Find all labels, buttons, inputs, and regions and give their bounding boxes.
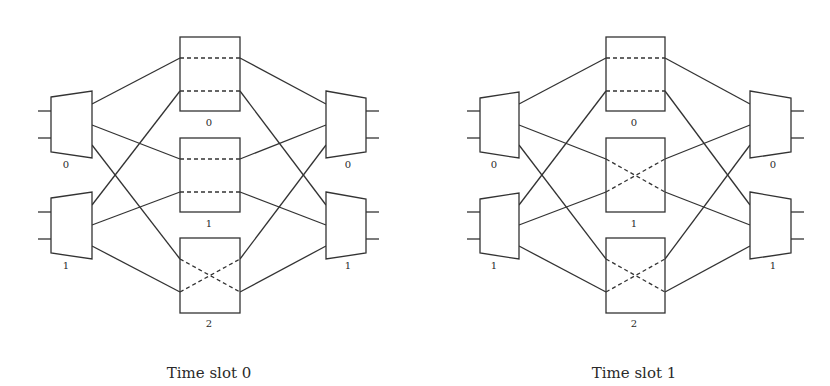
panel-time-slot-0: 0 1 0 1 2 [38,37,379,382]
panel-time-slot-1: 0 1 0 1 2 0 [467,37,804,382]
link-in1-mid2 [92,246,180,292]
mux-trapezoid [750,91,791,158]
demux-trapezoid [480,193,519,259]
output-switch-1: 1 [326,192,379,271]
switch-label: 0 [345,159,351,170]
middle-switch-0: 0 [180,37,240,128]
switch-label: 1 [770,260,776,271]
switch-label: 1 [63,260,69,271]
switch-label: 1 [491,260,497,271]
link-mid1-out1 [665,192,750,225]
link-mid0-out1 [665,91,750,205]
demux-trapezoid [51,91,92,158]
mux-trapezoid [326,192,366,259]
switch-box [606,238,665,313]
output-switch-0: 0 [326,91,379,170]
panel-caption: Time slot 1 [592,364,677,382]
middle-switch-0: 0 [606,37,665,128]
output-stage-links [665,58,750,292]
link-mid2-out1 [665,246,750,292]
switch-box [606,37,665,111]
link-in0-mid2 [92,145,180,259]
link-mid2-out0 [240,145,326,259]
link-in0-mid1 [92,125,180,159]
middle-switch-2: 2 [180,238,240,329]
middle-switch-1: 1 [606,138,665,229]
switch-label: 0 [63,159,69,170]
panel-caption: Time slot 0 [167,364,252,382]
switch-label: 1 [206,218,212,229]
middle-switch-1: 1 [180,138,240,229]
output-switch-0: 0 [750,91,804,170]
link-in1-mid2 [519,246,606,292]
demux-trapezoid [480,92,519,158]
link-mid1-out0 [240,125,326,159]
switch-label: 0 [491,159,497,170]
input-switch-1: 1 [38,192,92,271]
link-in1-mid1 [519,192,606,225]
input-switch-0: 0 [467,92,519,170]
link-mid0-out0 [665,58,750,104]
switch-box [180,37,240,111]
link-in0-mid0 [519,58,606,104]
link-in0-mid0 [92,58,180,104]
demux-trapezoid [51,192,92,259]
switch-box [180,238,240,313]
mux-trapezoid [750,192,791,259]
input-switch-1: 1 [467,193,519,271]
link-mid2-out0 [665,145,750,259]
link-in1-mid1 [92,192,180,225]
switch-label: 0 [770,159,776,170]
link-in1-mid0 [519,91,606,205]
middle-switch-2: 2 [606,238,665,329]
clos-network-figure: 0 1 0 1 2 [0,0,830,386]
link-in1-mid0 [92,91,180,205]
switch-label: 0 [206,117,212,128]
switch-label: 1 [631,218,637,229]
link-mid0-out0 [240,58,326,104]
switch-label: 1 [345,260,351,271]
output-switch-1: 1 [750,192,804,271]
switch-label: 2 [206,318,212,329]
link-mid2-out1 [240,246,326,292]
input-switch-0: 0 [38,91,92,170]
link-mid0-out1 [240,91,326,205]
link-in0-mid2 [519,145,606,259]
input-stage-links [92,58,180,292]
link-in0-mid1 [519,125,606,159]
switch-label: 0 [631,117,637,128]
link-mid1-out1 [240,192,326,225]
switch-box [180,138,240,212]
input-stage-links [519,58,606,292]
mux-trapezoid [326,91,366,158]
link-mid1-out0 [665,125,750,159]
switch-label: 2 [631,318,637,329]
output-stage-links [240,58,326,292]
switch-box [606,138,665,212]
